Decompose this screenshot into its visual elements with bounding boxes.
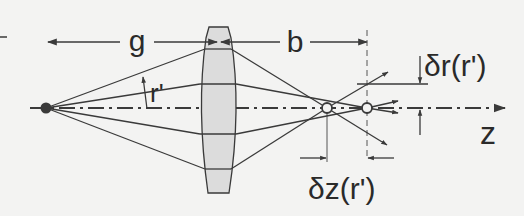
marginal-focus-point <box>322 103 332 113</box>
paraxial-focus-point <box>362 103 372 113</box>
r-prime-label: r' <box>150 78 164 108</box>
delta-z-label: δz(r') <box>308 172 375 205</box>
lens-aberration-diagram: g b r' δr(r') <box>0 0 524 216</box>
object-point <box>41 103 52 114</box>
lens <box>201 27 236 193</box>
image-rays <box>231 49 398 169</box>
g-label: g <box>129 24 146 57</box>
delta-r-label: δr(r') <box>424 49 486 82</box>
b-label: b <box>287 25 304 58</box>
z-axis-label: z <box>480 115 496 151</box>
